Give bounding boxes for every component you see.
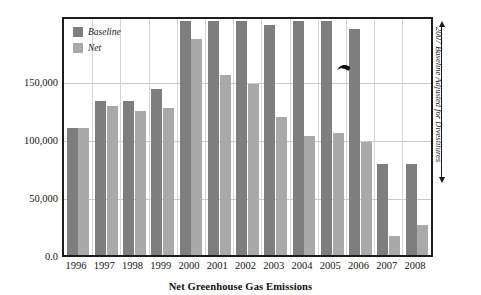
annotation-label: 2007 Baseline Adjusted for Divestitures [432,27,446,179]
y-axis-tick-label: 50,000 [2,194,58,204]
legend-swatch-icon [73,43,83,53]
bar-baseline-1998 [123,101,134,255]
bar-baseline-2004 [293,21,304,255]
bar-baseline-2003 [264,25,275,255]
legend-item-baseline: Baseline [73,25,163,39]
bar-net-2006 [361,142,372,255]
y-axis-tick-label: 100,000 [2,136,58,146]
bar-net-2002 [248,84,259,255]
y-axis-tick-label: 150,000 [2,78,58,88]
bar-baseline-2002 [236,21,247,255]
bar-baseline-2000 [180,21,191,255]
bar-baseline-2001 [208,21,219,255]
bar-net-2003 [276,117,287,255]
bar-net-1997 [107,106,118,255]
bar-baseline-2005 [321,21,332,255]
bar-baseline-2007 [377,164,388,255]
bar-net-2007 [389,236,400,255]
y-axis-tick-labels: 150,000 100,000 50,000 0.0 [0,0,58,295]
bar-baseline-1997 [95,101,106,255]
bar-net-2000 [191,39,202,255]
x-axis-title: Net Greenhouse Gas Emissions [0,281,481,292]
legend-swatch-icon [73,27,83,37]
bar-net-2008 [417,225,428,255]
y-axis-tick-label: 0.0 [2,252,58,262]
legend-label: Net [88,43,101,53]
bar-net-2004 [304,136,315,255]
divestiture-annotation: 2007 Baseline Adjusted for Divestitures [437,17,481,187]
bar-net-1999 [163,108,174,255]
bar-net-1996 [78,128,89,255]
legend: Baseline Net [73,25,163,57]
legend-label: Baseline [88,27,121,37]
bar-baseline-1999 [151,89,162,255]
bar-baseline-1996 [67,128,78,255]
bar-net-2001 [220,75,231,255]
bar-net-1998 [135,111,146,255]
mouse-pointer-arrow-icon [337,62,351,74]
legend-item-net: Net [73,41,163,55]
bar-chart: 150,000 100,000 50,000 0.0 Baseline [0,0,481,295]
bar-net-2005 [333,133,344,255]
x-axis-tick-labels: 1996199719981999200020012002200320042005… [62,260,433,276]
bar-baseline-2008 [406,164,417,255]
x-axis-tick-label: 2008 [396,260,434,272]
